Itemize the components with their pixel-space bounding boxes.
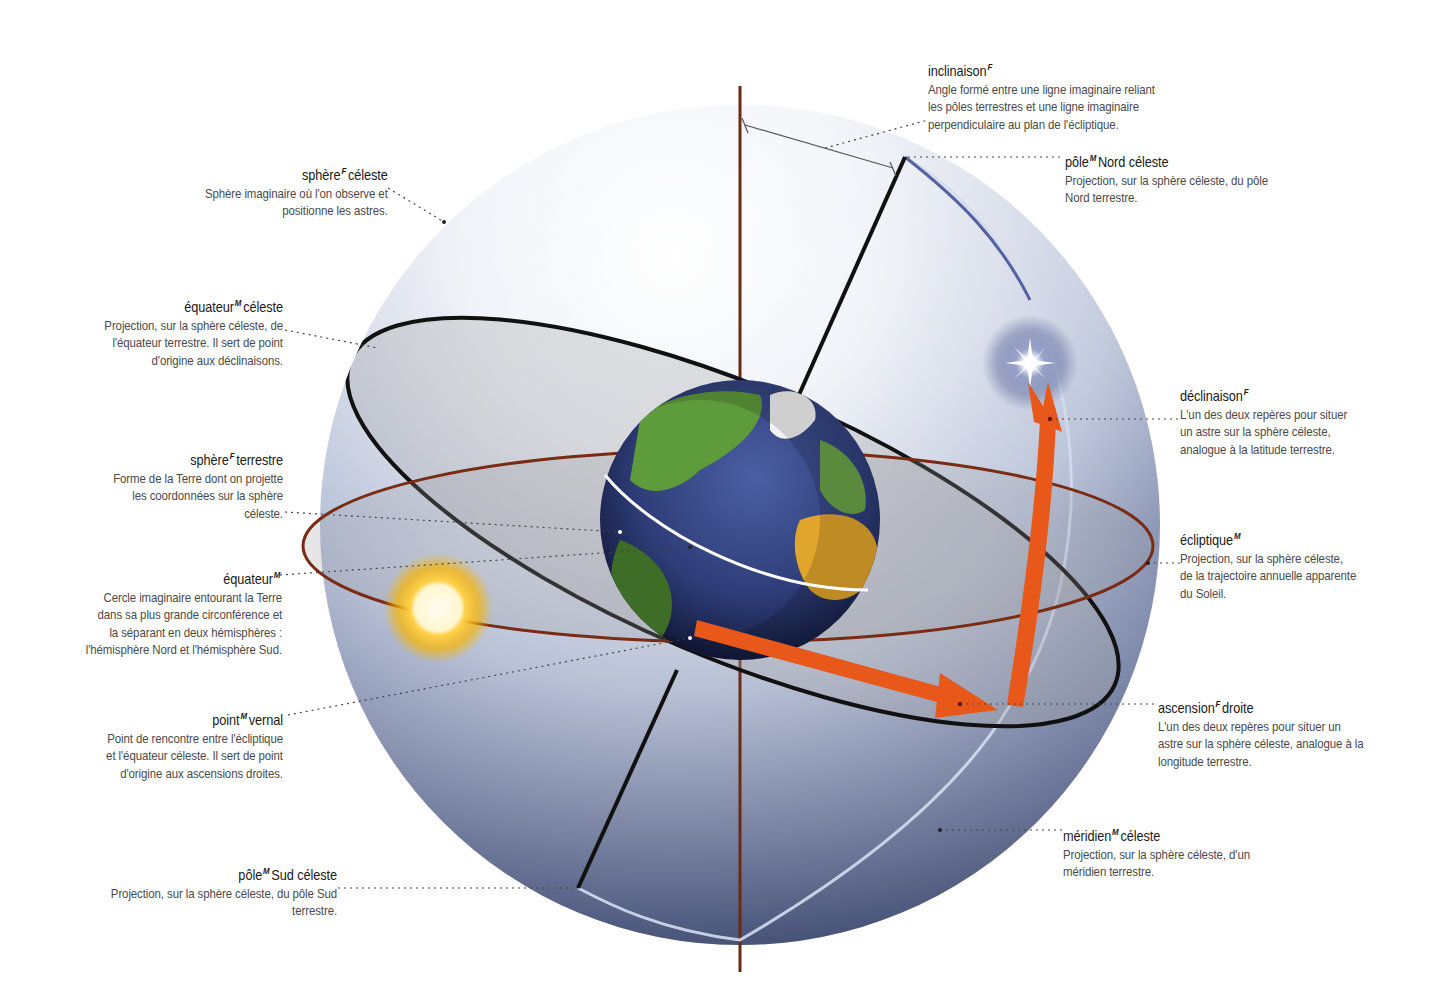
description: Point de rencontre entre l'écliptique et…	[106, 730, 283, 783]
term: pôle	[1065, 154, 1089, 170]
description: Projection, sur la sphère céleste, du pô…	[1065, 172, 1268, 207]
description: L'un des deux repères pour situer un ast…	[1180, 406, 1347, 459]
term: point	[212, 712, 239, 728]
sun-icon	[383, 553, 493, 663]
description: Angle formé entre une ligne imaginaire r…	[928, 81, 1155, 134]
term: ascension	[1158, 700, 1215, 716]
label-declinaison: déclinaisonF L'un des deux repères pour …	[1180, 383, 1347, 458]
term: méridien	[1063, 828, 1111, 844]
gender-mark: F	[230, 451, 235, 461]
description: Projection, sur la sphère céleste, de la…	[1180, 550, 1356, 603]
term-suffix: terrestre	[236, 452, 283, 468]
description: Projection, sur la sphère céleste, du pô…	[111, 885, 337, 920]
label-point-vernal: pointMvernal Point de rencontre entre l'…	[106, 707, 283, 782]
description: Cercle imaginaire entourant la Terre dan…	[86, 589, 282, 659]
description: Forme de la Terre dont on projette les c…	[113, 470, 283, 523]
star-icon	[982, 315, 1078, 411]
gender-mark: F	[342, 166, 347, 176]
gender-mark: F	[1244, 387, 1249, 397]
description: Projection, sur la sphère céleste, d'un …	[1063, 846, 1250, 881]
label-meridien-celeste: méridienMcéleste Projection, sur la sphè…	[1063, 823, 1250, 881]
gender-mark: M	[240, 711, 247, 721]
term-suffix: céleste	[348, 167, 388, 183]
term-suffix: céleste	[243, 299, 283, 315]
gender-mark: M	[274, 570, 281, 580]
term: déclinaison	[1180, 388, 1243, 404]
term: écliptique	[1180, 532, 1233, 548]
gender-mark: M	[1112, 827, 1119, 837]
term-suffix: Nord céleste	[1098, 154, 1169, 170]
term-suffix: Sud céleste	[271, 867, 337, 883]
gender-mark: M	[1234, 531, 1241, 541]
term: sphère	[302, 167, 341, 183]
label-inclinaison: inclinaisonF Angle formé entre une ligne…	[928, 58, 1155, 133]
label-ecliptique: écliptiqueM Projection, sur la sphère cé…	[1180, 527, 1356, 602]
label-pole-sud-celeste: pôleMSud céleste Projection, sur la sphè…	[111, 862, 337, 920]
label-equateur-celeste: équateurMcéleste Projection, sur la sphè…	[104, 294, 283, 369]
description: L'un des deux repères pour situer un ast…	[1158, 718, 1364, 771]
term-suffix: céleste	[1120, 828, 1160, 844]
gender-mark: M	[263, 866, 270, 876]
term: pôle	[238, 867, 262, 883]
term: inclinaison	[928, 63, 987, 79]
gender-mark: F	[1216, 699, 1221, 709]
gender-mark: M	[1090, 153, 1097, 163]
label-sphere-celeste: sphèreFcéleste Sphère imaginaire où l'on…	[205, 162, 388, 220]
gender-mark: F	[987, 62, 992, 72]
gender-mark: M	[235, 298, 242, 308]
label-ascension-droite: ascensionFdroite L'un des deux repères p…	[1158, 695, 1364, 770]
description: Sphère imaginaire où l'on observe et pos…	[205, 185, 388, 220]
term: équateur	[184, 299, 234, 315]
label-sphere-terrestre: sphèreFterrestre Forme de la Terre dont …	[113, 447, 283, 522]
label-equateur: équateurM Cercle imaginaire entourant la…	[86, 566, 282, 659]
term: sphère	[190, 452, 229, 468]
term: équateur	[223, 571, 273, 587]
label-pole-nord-celeste: pôleMNord céleste Projection, sur la sph…	[1065, 149, 1268, 207]
description: Projection, sur la sphère céleste, de l'…	[104, 317, 283, 370]
term-suffix: droite	[1222, 700, 1253, 716]
term-suffix: vernal	[249, 712, 283, 728]
